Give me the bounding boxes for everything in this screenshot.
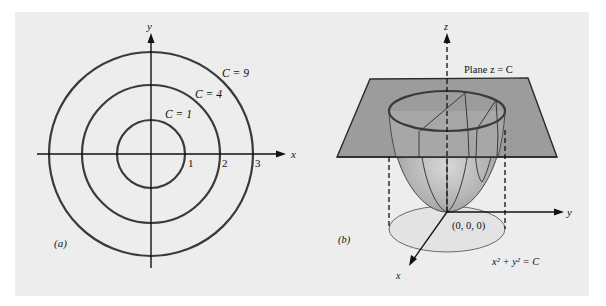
panel-b-caption: (b) — [338, 234, 351, 246]
tick-label-1: 1 — [188, 157, 194, 169]
y-axis-arrow-icon — [148, 33, 155, 43]
origin-label: (0, 0, 0) — [452, 220, 486, 232]
x-axis-label: x — [290, 148, 296, 160]
z-axis-arrow-icon — [444, 33, 451, 43]
y-axis-label: y — [146, 20, 152, 32]
y-axis-3d-label: y — [566, 206, 572, 218]
y-axis-3d-arrow-icon — [554, 209, 564, 216]
z-axis-label: z — [443, 21, 448, 32]
plane-label: Plane z = C — [464, 64, 513, 75]
level-label-c9: C = 9 — [222, 67, 249, 79]
level-label-c1: C = 1 — [165, 108, 192, 120]
level-label-c4: C = 4 — [195, 88, 222, 100]
tick-label-2: 2 — [222, 157, 228, 169]
panel-a-caption: (a) — [54, 237, 67, 250]
tick-label-3: 3 — [255, 157, 261, 169]
figure-canvas: x y 1 2 3 C = 1 C = 4 C = 9 (a) — [0, 0, 606, 306]
equation-label: x² + y² = C — [491, 256, 540, 267]
x-axis-3d-label: x — [395, 270, 401, 281]
x-axis-arrow-icon — [276, 151, 286, 158]
